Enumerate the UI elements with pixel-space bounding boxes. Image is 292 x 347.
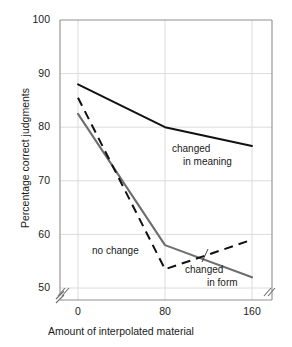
x-axis-title: Amount of interpolated material (48, 325, 194, 337)
x-tick-label-0: 0 (58, 306, 98, 317)
series-annotation-no-change-line1: no change (92, 245, 139, 256)
series-annotation-no-change: no change (92, 245, 139, 258)
y-tick-label-50: 50 (14, 282, 50, 293)
series-annotation-changed-in-meaning-line2: in meaning (183, 156, 232, 169)
series-annotation-changed-in-form-line2: in form (207, 277, 238, 290)
y-tick-label-100: 100 (14, 14, 50, 25)
series-annotation-changed-in-form-line1: changed (185, 264, 223, 275)
plot-frame (60, 20, 272, 300)
series-annotation-changed-in-form: changed in form (185, 264, 238, 289)
x-tick-label-80: 80 (145, 306, 185, 317)
series-annotation-changed-in-meaning-line1: changed (172, 143, 210, 154)
series-annotation-changed-in-meaning: changed in meaning (172, 143, 232, 168)
x-axis-break-right-icon (264, 288, 275, 296)
y-axis-title: Percentage correct judgments (19, 63, 31, 253)
x-tick-label-160: 160 (232, 306, 272, 317)
chart-figure: 100 90 80 70 60 50 0 80 160 Percentage c… (0, 0, 292, 347)
